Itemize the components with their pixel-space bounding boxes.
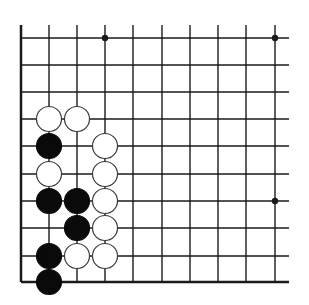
white-stone <box>65 244 90 269</box>
white-stone <box>93 162 118 187</box>
black-stone <box>37 134 62 159</box>
white-stone <box>37 162 62 187</box>
white-stone <box>93 189 118 214</box>
star-point-icon <box>272 35 278 41</box>
black-stone <box>37 189 62 214</box>
black-stone <box>65 189 90 214</box>
black-stone <box>37 270 62 295</box>
white-stone <box>65 107 90 132</box>
board-grid <box>21 25 289 282</box>
white-stone <box>93 216 118 241</box>
white-stone <box>93 244 118 269</box>
black-stone <box>65 216 90 241</box>
black-stone <box>37 244 62 269</box>
white-stone <box>93 134 118 159</box>
star-point-icon <box>102 35 108 41</box>
star-point-icon <box>272 198 278 204</box>
go-board <box>0 0 309 305</box>
white-stone <box>37 107 62 132</box>
